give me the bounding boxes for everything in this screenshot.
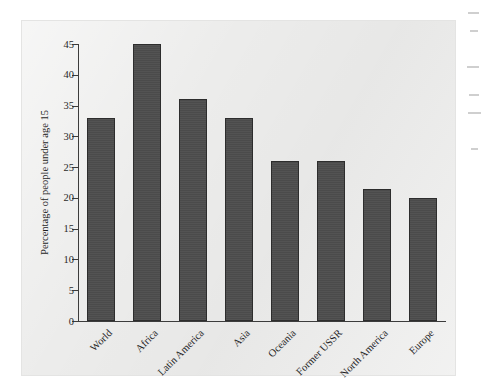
y-axis-tick-label: 15	[64, 224, 75, 235]
bar	[133, 44, 162, 321]
y-axis-tick-label: 5	[69, 285, 74, 296]
y-axis-tick-label: 25	[64, 162, 75, 173]
y-axis-tick-label: 30	[64, 132, 75, 143]
y-axis-tick-label: 35	[64, 101, 75, 112]
x-axis-line	[73, 321, 446, 322]
bar	[225, 118, 254, 321]
scanned-page-background: Percentage of people under age 15 051015…	[0, 0, 492, 391]
page-edge-artifacts	[466, 8, 486, 178]
y-axis-line	[78, 44, 79, 322]
y-axis-tick-label: 10	[64, 255, 75, 266]
bar	[363, 189, 392, 321]
bar	[317, 161, 346, 321]
bar	[179, 99, 208, 321]
y-axis-tick-label: 40	[64, 70, 75, 81]
y-axis-title: Percentage of people under age 15	[38, 44, 52, 321]
bar	[87, 118, 116, 321]
plot-area: 051015202530354045 WorldAfricaLatin Amer…	[78, 44, 446, 321]
y-axis-tick-label: 20	[64, 193, 75, 204]
y-axis-tick-label: 45	[64, 39, 75, 50]
y-axis-tick-label: 0	[69, 316, 74, 327]
bar	[409, 198, 438, 321]
bar	[271, 161, 300, 321]
